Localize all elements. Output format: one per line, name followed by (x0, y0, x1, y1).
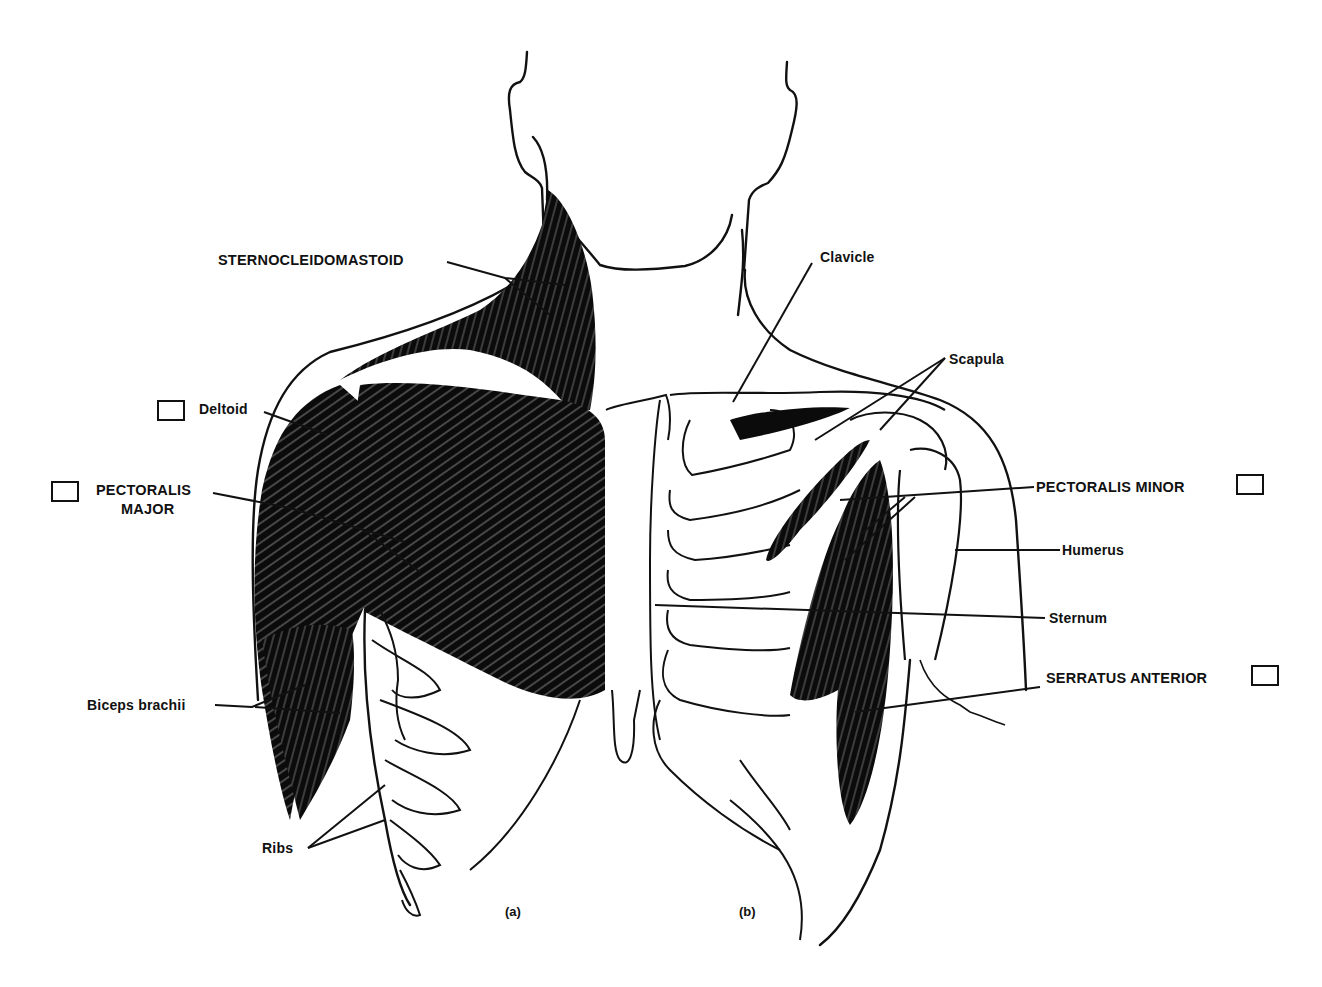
label-humerus: Humerus (1062, 542, 1124, 559)
checkbox-pectoralis-major[interactable] (51, 481, 79, 502)
panel-b-muscles (730, 407, 893, 825)
label-sternum: Sternum (1049, 610, 1107, 627)
panel-caption-b: (b) (739, 904, 756, 919)
label-ribs: Ribs (262, 840, 293, 857)
label-scapula: Scapula (949, 351, 1004, 368)
right-neck-outline (738, 230, 743, 315)
head-outline-right (744, 62, 797, 270)
label-deltoid: Deltoid (199, 401, 248, 418)
checkbox-serratus-anterior[interactable] (1251, 665, 1279, 686)
checkbox-deltoid[interactable] (157, 400, 185, 421)
pectoralis-minor-muscle (730, 407, 850, 440)
ribs-panel-b (650, 400, 802, 940)
label-pectoralis-major-line1: PECTORALIS (96, 482, 191, 499)
label-clavicle: Clavicle (820, 249, 875, 266)
sternum-outline (606, 395, 670, 763)
label-biceps-brachii: Biceps brachii (87, 697, 186, 714)
panel-caption-a: (a) (505, 904, 521, 919)
label-serratus-anterior: SERRATUS ANTERIOR (1046, 670, 1207, 687)
label-pectoralis-major-line2: MAJOR (121, 501, 174, 518)
clavicle-bone (670, 392, 945, 410)
label-pectoralis-minor: PECTORALIS MINOR (1036, 479, 1185, 496)
humerus-bone (910, 449, 961, 660)
label-sternocleidomastoid: STERNOCLEIDOMASTOID (218, 252, 404, 269)
checkbox-pectoralis-minor[interactable] (1236, 474, 1264, 495)
sternocleidomastoid-muscle (340, 190, 596, 410)
